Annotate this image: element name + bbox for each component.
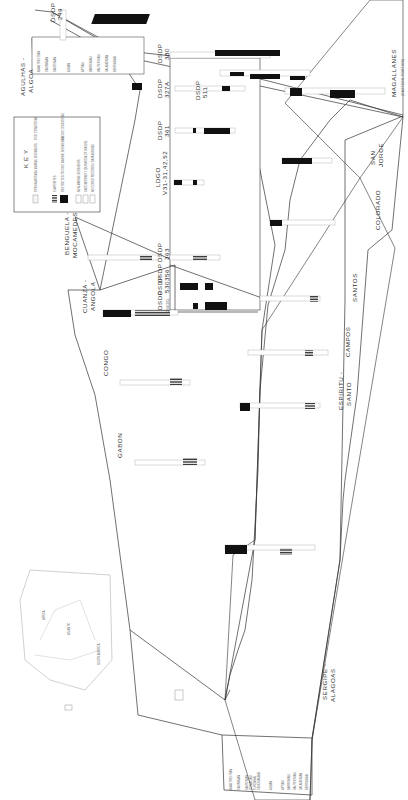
compass-glyph-icon [65,705,72,710]
edge [130,630,225,700]
label-espiritu-1: ESPIRITU - [337,372,344,410]
site-dsdp327a-2: 327A [163,81,170,98]
label-benguela-1: BENGUELA - [63,212,70,255]
anoxic-band [240,403,250,411]
fence-diagram: GABON CONGO CUANZA - ANGOLA BENGUELA - M… [0,0,408,800]
evaporite-band [140,255,152,261]
anoxic-band [250,74,280,79]
site-dsdp363-1: DSDP [156,242,163,262]
african-top-edge [35,10,140,715]
inset-fence [35,650,100,660]
label-magallanes-1: MAGALLANES [390,49,397,97]
stage-label: BERRIASIAN [113,56,117,72]
label-gabon: GABON [116,433,123,458]
stage-label: ALBIAN [67,63,71,72]
site-dsdp249-1: DSDP [49,2,56,22]
evaporite-band [170,378,182,385]
anoxic-band [282,158,312,164]
site-dsdp330-1: DSDP [156,43,163,63]
anoxic-band [290,88,302,96]
stage-label: APTIAN [81,63,85,72]
site-ldgo-2: V31-31,42,52 [161,151,168,195]
key-item-6: UNCONFORMITY (DURATION OF HIATUS) [84,141,88,192]
anoxic-band [215,50,280,56]
label-magallanes-2: (EASTERN PORTION) [401,58,405,96]
anoxic-band [205,302,227,310]
column-campos [248,350,328,355]
site-dsdp364-2: 364/365 [166,298,170,312]
anoxic-band [103,310,131,317]
swatch-open-marine [33,195,38,203]
site-dsdp249-2: 249 [56,8,63,20]
evaporite-band [280,548,292,555]
anoxic-band [270,220,282,226]
edge [138,715,222,735]
evaporite-band [193,255,207,260]
stage-label: MAASTRICHTIAN [37,51,41,72]
label-colorado: COLORADO [374,190,381,230]
key-item-2: EVAPORITES [53,175,57,192]
stage-label: BARREMIAN [287,774,291,790]
evaporite-band [135,310,170,316]
site-dsdp511-2: 511 [201,86,208,98]
evaporite-band [310,296,318,302]
anoxic-band [193,303,198,309]
site-dsdp361-1: DSDP [156,120,163,140]
site-dsdp361-2: 361 [163,125,170,137]
label-espiritu-2: SANTO [345,382,352,406]
stage-label: VALANGINIAN [299,773,303,790]
anoxic-band [290,76,305,80]
anoxic-band [230,72,244,76]
site-ldgo-1: LDGO [154,167,161,187]
key-item-4: ANOXIC CONDITIONS [61,113,65,140]
anoxic-band [205,283,213,290]
key-item-7: NO CORED RECORDS / DATA MISSING [91,144,95,192]
label-sergipe-2: ALAGOAS [329,668,336,702]
site-dsdp330-2: 330 [163,48,170,60]
key-item-5: NON-MARINE SEDIMENTS [77,159,81,192]
anoxic-band [180,283,198,290]
site-dsdp363-2: 363 [163,248,170,260]
inset-label: SOUTH AMERICA [97,643,101,665]
stage-label: CAMPANIAN [45,57,49,72]
anoxic-band [204,128,230,134]
label-agulhas-2: ALGOA [27,68,34,93]
stage-label: SANTONIAN [245,775,249,790]
inset-outline [20,570,112,690]
site-dsdp356-2: 356 [163,269,170,281]
stage-label: BERRIASIAN [305,774,309,790]
anoxic-band [193,128,196,133]
swatch-evaporites [52,195,57,203]
anoxic-band [174,180,182,185]
site-dsdp511-1: DSDP [194,80,201,100]
swatch-nonmarine [76,195,81,203]
stage-label: VALANGINIAN [105,55,109,72]
swatch-restricted [60,195,68,203]
label-sanjorge-2: JORGE [377,143,384,167]
key-item-1: OXIC CONDITIONS [34,116,38,140]
stage-label: SANTONIAN [53,57,57,72]
label-cuanza-1: CUANZA - [81,279,88,313]
stage-label: BARREMIAN [89,56,93,72]
label-campos: CAMPOS [344,327,351,357]
site-dsdp327a-1: DSDP [156,78,163,98]
stage-label: MAASTRICHTIAN [229,769,233,790]
anoxic-band [330,90,355,98]
block-diagram-icon [175,690,183,700]
column-dsdp327a [175,86,245,91]
anoxic-band [222,86,230,91]
swatch-unconformity [83,195,88,203]
stage-label: CAMPANIAN [237,775,241,790]
stage-label: HAUTERIVIAN [293,772,297,790]
label-cuanza-2: ANGOLA [89,281,96,311]
stage-label: ALBIAN [269,781,273,790]
key-item-3: RESTRICTED-TO-OXIC MARINE SEDIMENTS [61,137,65,192]
edge [75,217,100,290]
anoxic-band [193,180,197,185]
site-dsdp364-1: DSDP [156,290,163,310]
inset-map: SOUTH AMERICA AFRICA ATLANTIC [20,570,183,710]
inset-label: ATLANTIC [67,623,71,635]
evaporite-band [183,458,197,465]
label-santos: SANTOS [351,273,358,302]
anoxic-band [225,545,247,554]
